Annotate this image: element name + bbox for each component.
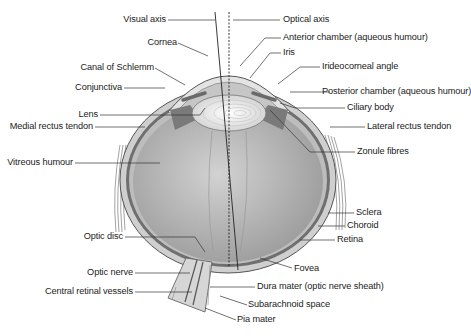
- label-optic-disc: Optic disc: [84, 231, 123, 242]
- label-medial-rectus-tendon: Medial rectus tendon: [10, 121, 93, 132]
- label-cornea: Cornea: [147, 37, 177, 48]
- label-irideocorneal-angle: Irideocorneal angle: [322, 61, 398, 72]
- label-anterior-chamber: Anterior chamber (aqueous humour): [283, 32, 428, 43]
- label-dura-mater: Dura mater (optic nerve sheath): [257, 281, 384, 292]
- label-choroid: Choroid: [347, 220, 378, 231]
- label-vitreous-humour: Vitreous humour: [7, 157, 73, 168]
- label-posterior-chamber: Posterior chamber (aqueous humour): [322, 86, 471, 97]
- label-retina: Retina: [337, 234, 363, 245]
- label-lens: Lens: [78, 109, 98, 120]
- label-ciliary-body: Ciliary body: [347, 102, 394, 113]
- label-sclera: Sclera: [356, 207, 381, 218]
- label-canal-of-schlemm: Canal of Schlemm: [81, 62, 154, 73]
- label-iris: Iris: [283, 47, 295, 58]
- label-zonule-fibres: Zonule fibres: [357, 146, 409, 157]
- label-optical-axis: Optical axis: [283, 14, 329, 25]
- label-conjunctiva: Conjunctiva: [75, 82, 122, 93]
- label-pia-mater: Pia mater: [237, 314, 275, 325]
- label-central-retinal-vessels: Central retinal vessels: [45, 286, 133, 297]
- label-visual-axis: Visual axis: [123, 14, 166, 25]
- label-fovea: Fovea: [294, 263, 319, 274]
- label-optic-nerve: Optic nerve: [87, 267, 133, 278]
- label-subarachnoid-space: Subarachnoid space: [248, 299, 330, 310]
- label-lateral-rectus-tendon: Lateral rectus tendon: [367, 121, 451, 132]
